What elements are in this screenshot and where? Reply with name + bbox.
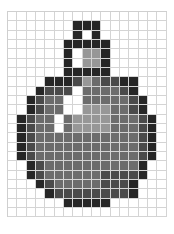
grid-cell[interactable]: [111, 152, 120, 161]
grid-cell[interactable]: [36, 161, 45, 170]
grid-cell[interactable]: [55, 143, 64, 152]
grid-cell[interactable]: [36, 115, 45, 124]
grid-cell[interactable]: [55, 152, 64, 161]
grid-cell[interactable]: [8, 96, 17, 105]
grid-cell[interactable]: [17, 208, 26, 217]
grid-cell[interactable]: [101, 21, 110, 30]
grid-cell[interactable]: [8, 87, 17, 96]
grid-cell[interactable]: [129, 68, 138, 77]
grid-cell[interactable]: [27, 171, 36, 180]
grid-cell[interactable]: [157, 115, 166, 124]
grid-cell[interactable]: [101, 180, 110, 189]
grid-cell[interactable]: [64, 31, 73, 40]
grid-cell[interactable]: [120, 171, 129, 180]
grid-cell[interactable]: [139, 152, 148, 161]
grid-cell[interactable]: [64, 143, 73, 152]
grid-cell[interactable]: [8, 49, 17, 58]
grid-cell[interactable]: [83, 12, 92, 21]
grid-cell[interactable]: [83, 199, 92, 208]
grid-cell[interactable]: [36, 143, 45, 152]
grid-cell[interactable]: [45, 152, 54, 161]
grid-cell[interactable]: [64, 77, 73, 86]
grid-cell[interactable]: [17, 189, 26, 198]
grid-cell[interactable]: [129, 59, 138, 68]
grid-cell[interactable]: [55, 199, 64, 208]
grid-cell[interactable]: [148, 189, 157, 198]
grid-cell[interactable]: [111, 49, 120, 58]
grid-cell[interactable]: [111, 77, 120, 86]
grid-cell[interactable]: [148, 115, 157, 124]
grid-cell[interactable]: [36, 77, 45, 86]
grid-cell[interactable]: [139, 161, 148, 170]
grid-cell[interactable]: [157, 208, 166, 217]
grid-cell[interactable]: [157, 180, 166, 189]
grid-cell[interactable]: [45, 161, 54, 170]
grid-cell[interactable]: [83, 208, 92, 217]
grid-cell[interactable]: [17, 12, 26, 21]
grid-cell[interactable]: [92, 31, 101, 40]
grid-cell[interactable]: [17, 31, 26, 40]
grid-cell[interactable]: [157, 77, 166, 86]
grid-cell[interactable]: [55, 189, 64, 198]
grid-cell[interactable]: [45, 180, 54, 189]
grid-cell[interactable]: [148, 12, 157, 21]
grid-cell[interactable]: [45, 171, 54, 180]
grid-cell[interactable]: [111, 143, 120, 152]
grid-cell[interactable]: [36, 105, 45, 114]
grid-cell[interactable]: [36, 49, 45, 58]
grid-cell[interactable]: [92, 124, 101, 133]
grid-cell[interactable]: [148, 105, 157, 114]
grid-cell[interactable]: [148, 133, 157, 142]
grid-cell[interactable]: [17, 152, 26, 161]
grid-cell[interactable]: [55, 77, 64, 86]
grid-cell[interactable]: [73, 161, 82, 170]
grid-cell[interactable]: [120, 49, 129, 58]
grid-cell[interactable]: [92, 21, 101, 30]
grid-cell[interactable]: [64, 105, 73, 114]
grid-cell[interactable]: [45, 133, 54, 142]
grid-cell[interactable]: [148, 171, 157, 180]
grid-cell[interactable]: [73, 77, 82, 86]
grid-cell[interactable]: [64, 96, 73, 105]
grid-cell[interactable]: [36, 189, 45, 198]
grid-cell[interactable]: [45, 208, 54, 217]
grid-cell[interactable]: [36, 87, 45, 96]
grid-cell[interactable]: [45, 96, 54, 105]
grid-cell[interactable]: [101, 208, 110, 217]
grid-cell[interactable]: [101, 87, 110, 96]
grid-cell[interactable]: [27, 31, 36, 40]
grid-cell[interactable]: [27, 180, 36, 189]
grid-cell[interactable]: [27, 133, 36, 142]
grid-cell[interactable]: [73, 96, 82, 105]
grid-cell[interactable]: [17, 21, 26, 30]
grid-cell[interactable]: [17, 77, 26, 86]
grid-cell[interactable]: [101, 68, 110, 77]
grid-cell[interactable]: [157, 143, 166, 152]
grid-cell[interactable]: [55, 40, 64, 49]
grid-cell[interactable]: [27, 152, 36, 161]
grid-cell[interactable]: [101, 124, 110, 133]
grid-cell[interactable]: [64, 189, 73, 198]
grid-cell[interactable]: [83, 96, 92, 105]
grid-cell[interactable]: [8, 115, 17, 124]
grid-cell[interactable]: [120, 40, 129, 49]
grid-cell[interactable]: [148, 152, 157, 161]
grid-cell[interactable]: [139, 87, 148, 96]
grid-cell[interactable]: [36, 12, 45, 21]
grid-cell[interactable]: [27, 77, 36, 86]
grid-cell[interactable]: [120, 133, 129, 142]
grid-cell[interactable]: [83, 124, 92, 133]
grid-cell[interactable]: [45, 143, 54, 152]
grid-cell[interactable]: [129, 12, 138, 21]
grid-cell[interactable]: [27, 68, 36, 77]
grid-cell[interactable]: [27, 189, 36, 198]
grid-cell[interactable]: [120, 77, 129, 86]
grid-cell[interactable]: [73, 105, 82, 114]
grid-cell[interactable]: [101, 49, 110, 58]
grid-cell[interactable]: [8, 143, 17, 152]
grid-cell[interactable]: [92, 189, 101, 198]
grid-cell[interactable]: [45, 124, 54, 133]
grid-cell[interactable]: [129, 180, 138, 189]
grid-cell[interactable]: [83, 40, 92, 49]
grid-cell[interactable]: [73, 21, 82, 30]
